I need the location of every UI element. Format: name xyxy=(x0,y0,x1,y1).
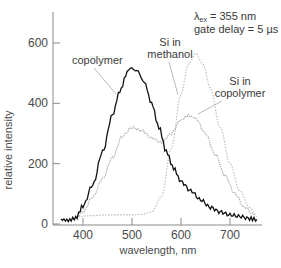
si-copolymer-leader xyxy=(198,101,222,114)
gate-delay-annotation: gate delay = 5 µs xyxy=(194,23,279,35)
excitation-annotation: λex = 355 nm xyxy=(194,10,256,23)
si-copolymer-label-2: copolymer xyxy=(215,87,266,99)
x-ticks: 400500600700 xyxy=(73,218,240,242)
y-tick-label: 0 xyxy=(41,217,48,231)
copolymer-label: copolymer xyxy=(72,54,123,66)
si-methanol-label-1: Si in xyxy=(159,36,180,48)
copolymer-leader xyxy=(94,68,116,94)
spectrum-chart: 0200400600 400500600700 relative intensi… xyxy=(0,0,281,268)
y-ticks: 0200400600 xyxy=(28,36,60,231)
y-tick-label: 400 xyxy=(28,96,48,110)
x-axis-label: wavelength, nm xyxy=(118,244,196,256)
si-methanol-leader xyxy=(169,62,178,95)
x-tick-label: 400 xyxy=(73,228,93,242)
si-copolymer-label-1: Si in xyxy=(229,75,250,87)
y-axis-label: relative intensity xyxy=(2,110,14,189)
x-tick-label: 700 xyxy=(220,228,240,242)
si-methanol-label-2: methanol xyxy=(147,48,192,60)
x-tick-label: 600 xyxy=(171,228,191,242)
series-layer xyxy=(61,54,257,222)
series-si-in-copolymer xyxy=(73,114,254,220)
x-tick-label: 500 xyxy=(122,228,142,242)
y-tick-label: 600 xyxy=(28,36,48,50)
y-tick-label: 200 xyxy=(28,157,48,171)
